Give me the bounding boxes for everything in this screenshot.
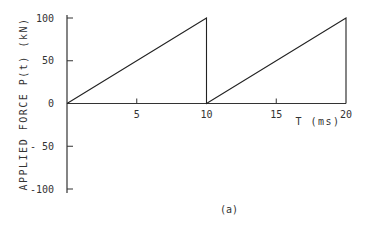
chart-canvas: 100500- 50-1005101520 APPLIED FORCE P(t)… bbox=[0, 0, 373, 229]
data-series bbox=[67, 18, 346, 104]
x-axis-title: T (ms) bbox=[295, 116, 340, 127]
y-tick-label: 0 bbox=[48, 98, 54, 109]
figure-caption: (a) bbox=[220, 204, 238, 215]
y-tick-label: 100 bbox=[36, 13, 54, 24]
x-tick-label: 10 bbox=[200, 109, 212, 120]
x-tick-label: 15 bbox=[270, 109, 282, 120]
x-tick-label: 5 bbox=[134, 109, 140, 120]
sawtooth-force-line bbox=[67, 18, 346, 104]
y-axis-title: APPLIED FORCE P(t) (kN) bbox=[18, 18, 29, 191]
y-tick-label: 50 bbox=[42, 55, 54, 66]
x-tick-label: 20 bbox=[340, 109, 352, 120]
y-tick-label: - 50 bbox=[30, 141, 54, 152]
y-tick-label: -100 bbox=[30, 184, 54, 195]
